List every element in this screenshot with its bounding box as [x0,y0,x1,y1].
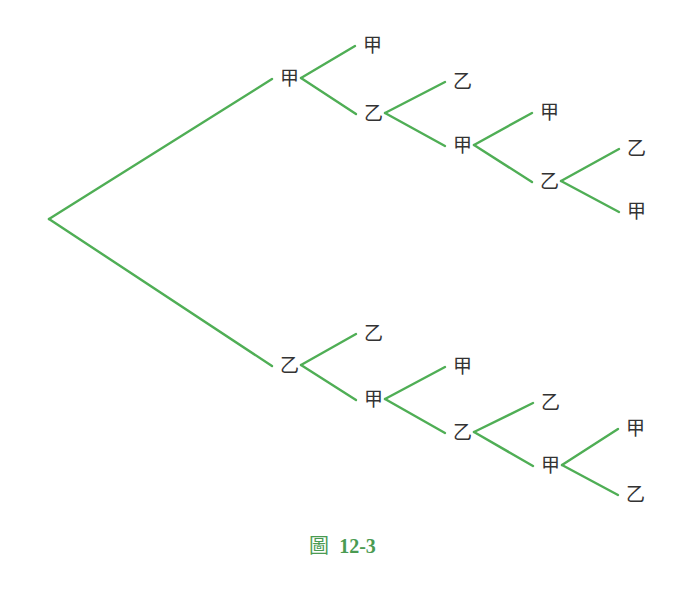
tree-edge [49,79,272,219]
tree-edge [474,403,533,432]
tree-edge [49,219,272,366]
tree-edge [385,367,445,399]
tree-edge [474,432,533,466]
tree-node-label: 乙 [362,102,384,124]
tree-node-label: 甲 [278,67,300,89]
tree-node-label: 甲 [538,101,560,123]
tree-node-label: 甲 [451,355,473,377]
tree-node-label: 乙 [362,322,384,344]
tree-node-label: 乙 [539,391,561,413]
tree-edge [474,145,532,182]
tree-node-label: 甲 [625,200,647,222]
tree-node-label: 乙 [624,483,646,505]
tree-edge [562,465,618,495]
tree-node-label: 甲 [624,417,646,439]
tree-node-label: 甲 [539,454,561,476]
tree-edge [301,78,356,114]
tree-node-label: 甲 [361,34,383,56]
tree-edge [562,429,618,465]
tree-node-label: 乙 [451,421,473,443]
tree-edge [385,399,445,433]
tree-edge [301,46,355,78]
tree-edge [561,181,619,212]
caption-number: 12-3 [339,535,376,557]
tree-diagram [0,0,685,598]
tree-edge [385,113,445,146]
tree-edge [474,113,532,145]
tree-edge [385,82,445,113]
tree-edge [561,149,619,181]
tree-node-label: 乙 [278,354,300,376]
caption-prefix: 圖 [309,534,329,558]
tree-edge [301,334,356,365]
tree-node-label: 乙 [538,170,560,192]
tree-edge [301,365,356,400]
tree-node-label: 甲 [362,388,384,410]
tree-node-label: 甲 [451,134,473,156]
figure-caption: 圖12-3 [0,530,685,559]
tree-node-label: 乙 [625,137,647,159]
tree-node-label: 乙 [451,70,473,92]
